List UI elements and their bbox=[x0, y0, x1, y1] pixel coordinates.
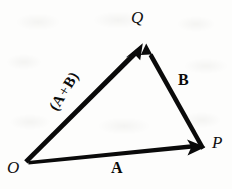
vector-label-a: A bbox=[111, 160, 123, 176]
vector-b-shaft bbox=[149, 54, 205, 150]
vector-a-plus-b-shaft bbox=[24, 52, 136, 164]
point-label-p: P bbox=[212, 134, 222, 151]
vector-a-plus-b-arrow bbox=[24, 43, 143, 163]
vector-b-arrow bbox=[141, 44, 205, 150]
point-label-q: Q bbox=[131, 9, 143, 26]
point-label-o: O bbox=[7, 159, 19, 176]
vector-label-b: B bbox=[178, 72, 189, 88]
vector-addition-figure: O P Q A B (A+B) bbox=[0, 0, 232, 189]
